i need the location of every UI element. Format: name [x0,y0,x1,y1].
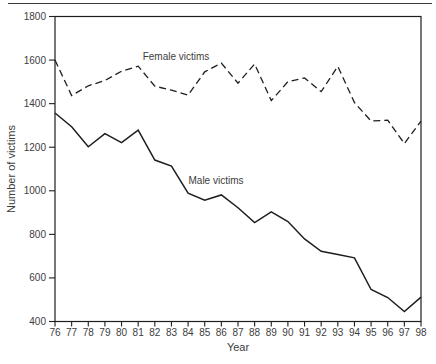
x-tick-label: 85 [199,327,211,338]
x-tick-label: 88 [249,327,261,338]
y-axis-title: Number of victims [5,124,17,213]
x-tick-label: 77 [66,327,78,338]
female-line-label: Female victims [143,51,210,62]
y-tick-label: 600 [29,272,46,283]
x-tick-label: 76 [49,327,61,338]
x-tick-label: 80 [116,327,128,338]
x-tick-label: 93 [332,327,344,338]
x-tick-label: 95 [366,327,378,338]
x-axis: 7677787980818283848586878889909192939495… [49,322,427,339]
y-tick-label: 1200 [24,142,47,153]
x-tick-label: 82 [149,327,161,338]
line-chart: 40060080010001200140016001800 7677787980… [0,0,436,364]
x-tick-label: 90 [282,327,294,338]
y-tick-label: 800 [29,229,46,240]
x-tick-label: 78 [83,327,95,338]
x-tick-label: 92 [316,327,328,338]
x-tick-label: 81 [133,327,145,338]
x-tick-label: 98 [415,327,427,338]
x-tick-label: 89 [266,327,278,338]
x-tick-label: 91 [299,327,311,338]
x-tick-label: 87 [232,327,244,338]
x-tick-label: 94 [349,327,361,338]
y-tick-label: 1000 [24,185,47,196]
plot-area-border [55,17,421,322]
male-victims-line [55,113,421,311]
y-tick-label: 400 [29,316,46,327]
female-victims-line [55,60,421,143]
x-tick-label: 79 [99,327,111,338]
y-tick-label: 1400 [24,98,47,109]
x-tick-label: 83 [166,327,178,338]
male-line-label: Male victims [188,175,243,186]
y-tick-label: 1600 [24,55,47,66]
x-tick-label: 97 [399,327,411,338]
x-tick-label: 86 [216,327,228,338]
x-tick-label: 96 [382,327,394,338]
x-axis-title: Year [227,341,250,353]
x-tick-label: 84 [183,327,195,338]
y-tick-label: 1800 [24,11,47,22]
y-axis: 40060080010001200140016001800 [24,11,55,327]
